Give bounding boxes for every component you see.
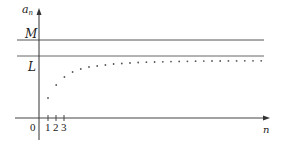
y-axis-arrow-icon [37, 8, 42, 15]
x-axis-arrow-icon [263, 116, 270, 121]
sequence-point [146, 61, 148, 63]
sequence-point [105, 64, 107, 66]
limit-label-L: L [28, 61, 36, 73]
sequence-point [187, 60, 189, 62]
sequence-point [47, 97, 49, 99]
y-axis-label-subscript: n [29, 9, 34, 17]
sequence-points [47, 60, 262, 99]
sequence-point [203, 60, 205, 62]
sequence-diagram [0, 0, 281, 144]
origin-label: 0 [30, 122, 36, 133]
sequence-point [178, 61, 180, 63]
sequence-point [64, 76, 66, 78]
sequence-point [260, 60, 262, 62]
sequence-point [72, 71, 74, 73]
sequence-point [113, 63, 115, 65]
sequence-point [170, 61, 172, 63]
sequence-point [88, 66, 90, 68]
y-axis-label: an [22, 4, 33, 17]
x-axis-label: n [263, 125, 269, 135]
sequence-point [129, 62, 131, 64]
sequence-point [211, 60, 213, 62]
sequence-point [137, 62, 139, 64]
upper-bound-label-M: M [25, 28, 37, 40]
x-tick-label-2: 2 [53, 122, 59, 133]
sequence-point [162, 61, 164, 63]
sequence-point [252, 60, 254, 62]
sequence-point [236, 60, 238, 62]
x-tick-label-1: 1 [45, 122, 51, 133]
sequence-point [154, 61, 156, 63]
sequence-point [228, 60, 230, 62]
sequence-point [96, 65, 98, 67]
sequence-point [244, 60, 246, 62]
sequence-point [195, 60, 197, 62]
sequence-point [55, 84, 57, 86]
sequence-point [219, 60, 221, 62]
sequence-point [80, 68, 82, 70]
sequence-point [121, 63, 123, 65]
x-tick-label-3: 3 [61, 122, 67, 133]
